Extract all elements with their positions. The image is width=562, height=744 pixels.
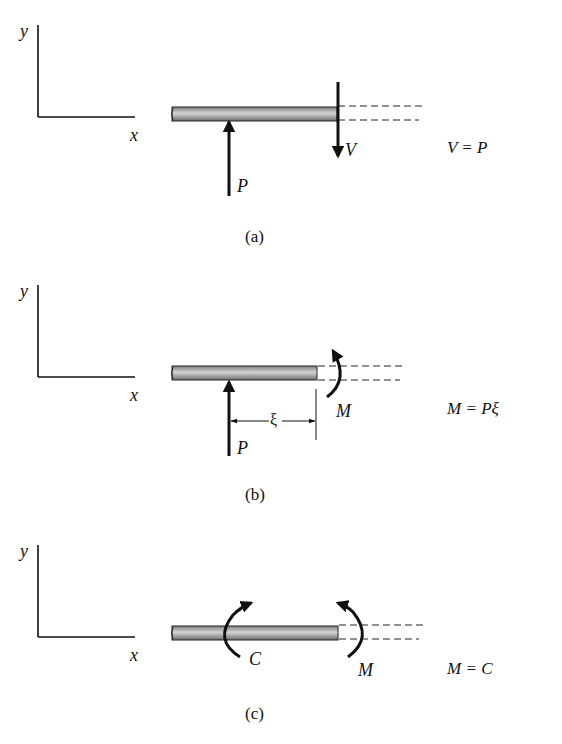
moment-label: M: [358, 661, 373, 679]
x-axis-label: x: [130, 646, 138, 664]
moment-arc-icon: [327, 351, 340, 397]
moment-arc-icon: [338, 603, 362, 657]
y-axis-label: y: [20, 22, 28, 40]
y-axis-label: y: [20, 542, 28, 560]
x-axis-label: x: [130, 126, 138, 144]
moment-label: M: [336, 402, 351, 420]
dashed-extension: [339, 625, 426, 639]
force-label: P: [237, 439, 248, 457]
x-axis-label: x: [130, 386, 138, 404]
axes-icon: [38, 25, 135, 117]
beam: [172, 107, 338, 121]
y-axis-label: y: [20, 282, 28, 300]
panel-a: [38, 25, 426, 196]
couple-label: C: [249, 650, 261, 668]
equation: M = Pξ: [447, 400, 499, 417]
axes-icon: [38, 545, 135, 637]
diagram-canvas: [0, 0, 562, 744]
beam: [172, 626, 339, 640]
dimension-label: ξ: [269, 412, 278, 428]
dashed-extension: [318, 366, 405, 380]
panel-c: [38, 545, 426, 657]
axes-icon: [38, 285, 135, 377]
panel-caption: (a): [245, 228, 264, 245]
equation: M = C: [447, 660, 492, 677]
equation: V = P: [447, 139, 487, 156]
dashed-extension: [338, 106, 426, 120]
beam: [172, 366, 318, 380]
panel-caption: (b): [245, 486, 265, 503]
panel-caption: (c): [245, 705, 264, 722]
panel-b: [38, 285, 405, 456]
shear-label: V: [345, 141, 356, 159]
force-label: P: [237, 177, 248, 195]
